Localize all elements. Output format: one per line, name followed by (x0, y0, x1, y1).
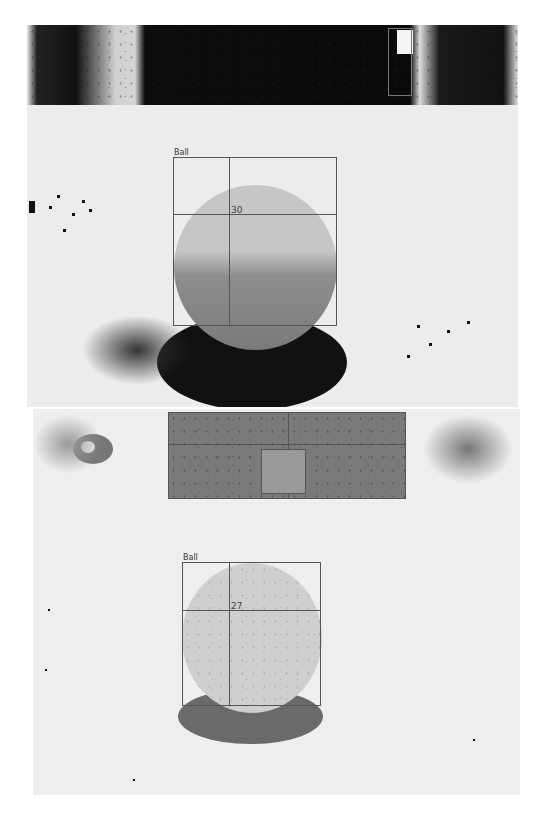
speck (473, 739, 475, 741)
speck (89, 209, 92, 212)
speck (49, 206, 52, 209)
object-label: Ball (174, 149, 189, 157)
speck (407, 355, 410, 358)
dark-band-noise (27, 25, 518, 105)
small-box-top-right (388, 28, 412, 96)
speck (133, 779, 135, 781)
band-divider (168, 444, 406, 445)
bounding-box (173, 157, 337, 326)
crosshair-vertical (229, 562, 230, 706)
top-image-panel: Ball 30 (27, 25, 518, 407)
speck (45, 669, 47, 671)
bounding-box (182, 562, 321, 706)
measurement-value: 27 (231, 602, 242, 611)
speck (63, 229, 66, 232)
measurement-value: 30 (231, 206, 242, 215)
crosshair-horizontal (182, 610, 321, 611)
crosshair-vertical (229, 157, 230, 326)
scatter-left (33, 414, 103, 474)
speck (447, 330, 450, 333)
speck (29, 201, 35, 213)
speck (72, 213, 75, 216)
speck (429, 343, 432, 346)
object-label: Ball (183, 554, 198, 562)
speck (48, 609, 50, 611)
speck (82, 200, 85, 203)
scatter-right (423, 414, 513, 484)
speck (417, 325, 420, 328)
crosshair-horizontal (173, 214, 337, 215)
speck (57, 195, 60, 198)
speck (467, 321, 470, 324)
center-patch (261, 449, 306, 494)
bottom-image-panel: Ball 27 (33, 409, 520, 795)
